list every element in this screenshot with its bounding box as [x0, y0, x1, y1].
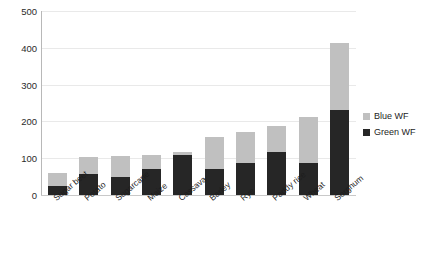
x-axis-labels: Sugar beetPotatoSugarcaneMaizeCassavaBar…: [0, 196, 360, 253]
legend-item-green-wf[interactable]: Green WF: [363, 124, 416, 140]
y-axis-tick-300: 300: [0, 81, 37, 91]
legend-swatch-blue-wf: [363, 113, 370, 120]
bar-sorghum[interactable]: [330, 43, 349, 195]
bar-segment-blue-wf: [236, 132, 255, 163]
y-axis-tick-100: 100: [0, 154, 37, 164]
legend-item-blue-wf[interactable]: Blue WF: [363, 108, 416, 124]
chart-legend: Blue WF Green WF: [363, 108, 416, 140]
bar-segment-blue-wf: [267, 126, 286, 152]
legend-label-blue-wf: Blue WF: [374, 112, 409, 121]
y-axis-tick-500: 500: [0, 7, 37, 17]
bar-rye[interactable]: [236, 132, 255, 195]
y-axis-tick-400: 400: [0, 44, 37, 54]
bar-segment-blue-wf: [142, 155, 161, 170]
bar-segment-blue-wf: [111, 156, 130, 176]
bar-segment-blue-wf: [299, 117, 318, 162]
bar-series-container: [42, 11, 355, 195]
stacked-bar-chart: 500 400 300 200 100 0 Sugar beetPotatoSu…: [0, 0, 425, 253]
y-axis-tick-200: 200: [0, 117, 37, 127]
bar-segment-blue-wf: [205, 137, 224, 169]
legend-label-green-wf: Green WF: [374, 128, 416, 137]
legend-swatch-green-wf: [363, 129, 370, 136]
bar-segment-blue-wf: [330, 43, 349, 110]
